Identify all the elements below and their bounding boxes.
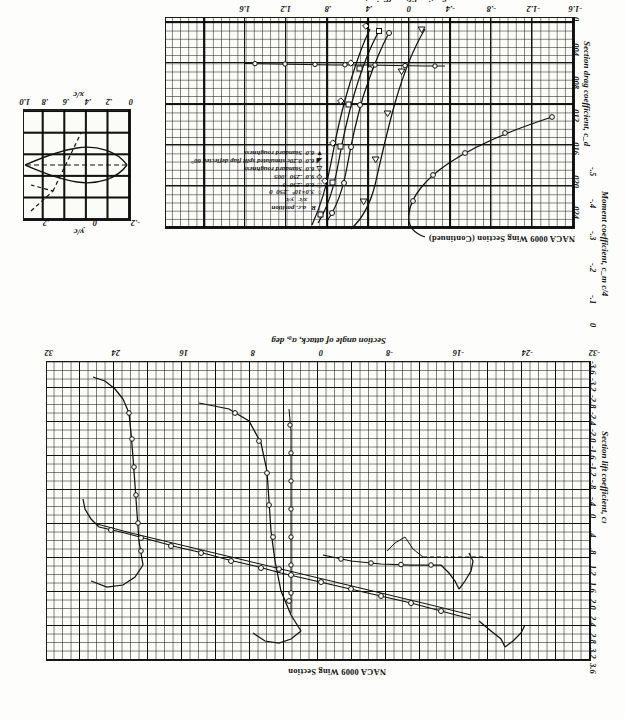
lower-ytick-mom-1: -.4 — [589, 199, 598, 208]
lower-ytick-lift-1: -3.2 — [589, 378, 598, 391]
legend-entry-0: ○ 3.0×10⁶ .250 0 — [191, 188, 323, 196]
lower-ytick-lift-11: .8 — [589, 548, 598, 554]
upper-ytick-drag-024: .024 — [572, 204, 581, 219]
profile-xtick-0: 0 — [129, 98, 133, 107]
lower-ytick-mom-3: -.2 — [589, 263, 598, 272]
lower-ytick-lift-4: -2.0 — [589, 429, 598, 442]
upper-ytick-drag-004: .004 — [572, 41, 581, 56]
airfoil-profile-figure: 0 .2 .4 .6 .8 1.0 x/c -.2 0 .2 y/c — [19, 91, 139, 229]
legend-entry-4: ◢ 6.0 0.20c simulated split flap deflect… — [191, 156, 323, 164]
legend-entry-2: ◇ 9.0 .250 .005 — [191, 172, 323, 180]
profile-xtick-6: .6 — [63, 98, 69, 107]
polar-markers-roughness — [360, 27, 425, 205]
legend-marker-square: □ — [316, 180, 323, 188]
upper-ytick-drag-0: 0 — [572, 17, 581, 21]
drag-polar-figure: R a.c. position x/c y/c ○ 3.0×10⁶ .250 0… — [145, 0, 575, 229]
profile-xtick-10: 1.0 — [19, 98, 30, 107]
lower-ytick-lift-13: 1.6 — [589, 582, 598, 593]
legend-subheaders: x/c y/c — [191, 195, 323, 203]
lift-markers-main — [109, 528, 444, 614]
lower-ytick-mom-4: -.1 — [589, 295, 598, 304]
legend-entry-1: □ 6.0 .250 0 — [191, 180, 323, 188]
lower-ytick-lift-12: 1.2 — [589, 565, 598, 576]
lower-ytick-lift-5: -1.6 — [589, 446, 598, 459]
lower-xtick-32: 32 — [45, 349, 54, 358]
lower-xtick--16: -16 — [453, 349, 464, 358]
lower-xtick-24: 24 — [112, 349, 121, 358]
profile-ytick-neg2: -.2 — [131, 219, 140, 228]
upper-xtick-1.6: 1.6 — [239, 5, 250, 14]
upper-xtick-0: 0 — [407, 5, 411, 14]
lower-ytick-lift-18: 3.6 — [589, 663, 598, 674]
lift-moment-figure: -32 -24 -16 -8 0 8 16 24 32 Section angl… — [31, 301, 591, 661]
upper-ytick-drag-020: .020 — [572, 173, 581, 188]
upper-xtick-0.8: .8 — [325, 5, 331, 14]
lower-ytick-mom-0: -.5 — [589, 167, 598, 176]
upper-xtick-0.4: .4 — [366, 5, 372, 14]
legend-marker-circle: ○ — [316, 188, 323, 196]
legend-marker-triangle: △ — [316, 164, 323, 172]
lower-xtick-16: 16 — [180, 349, 189, 358]
upper-xtick--0.4: -.4 — [446, 5, 455, 14]
caption-top: NACA 0009 Wing Section (Continued) — [429, 234, 575, 244]
profile-xtick-2: .2 — [106, 98, 112, 107]
polar-markers-splitflap — [411, 115, 555, 204]
lower-ytick-lift-6: -1.2 — [589, 463, 598, 476]
profile-ytick-0: 0 — [93, 219, 97, 228]
legend-marker-halffilled: ◢ — [316, 156, 323, 164]
upper-ytick-drag-012: .012 — [572, 107, 581, 122]
lift-markers-roughness — [233, 411, 292, 604]
legend-col-headers: R a.c. position — [191, 203, 323, 211]
lower-xtick-8: 8 — [251, 349, 255, 358]
profile-ytick-pos2: .2 — [43, 219, 49, 228]
lower-xtick--8: -8 — [386, 349, 393, 358]
polar-markers-R6 — [318, 29, 382, 218]
lower-ytick-lift-15: 2.4 — [589, 616, 598, 627]
lower-ytick-lift-2: -2.8 — [589, 395, 598, 408]
legend-entry-5: ▼ 6.0 Standard roughness — [191, 148, 323, 156]
profile-xlabel: x/c — [73, 90, 84, 99]
lower-ytick-lift-8: -.4 — [589, 497, 598, 506]
lower-xlabel: Section angle of attack, α₀, deg — [271, 336, 386, 345]
upper-xtick-1.2: 1.2 — [280, 5, 291, 14]
profile-ylabel: y/c — [74, 227, 85, 236]
moment-ac-markers — [253, 61, 437, 68]
drag-polar-legend: R a.c. position x/c y/c ○ 3.0×10⁶ .250 0… — [191, 148, 323, 211]
upper-ytick-drag-016: .016 — [572, 140, 581, 155]
legend-marker-filled-triangle: ▼ — [316, 148, 323, 156]
lower-ytick-lift-0: -3.6 — [589, 361, 598, 374]
upper-ytick-drag-008: .008 — [572, 74, 581, 89]
splitflap-lift-markers — [339, 557, 434, 568]
legend-entry-3: △ 6.0 Standard roughness — [191, 164, 323, 172]
legend-marker-diamond: ◇ — [316, 172, 323, 180]
lower-ytick-lift-17: 3.2 — [589, 648, 598, 659]
lower-xtick-0: 0 — [319, 349, 323, 358]
upper-ylabel-drag: Section drag coefficient, c_d — [582, 41, 591, 146]
profile-xtick-4: .4 — [85, 98, 91, 107]
lower-ytick-lift-3: -2.4 — [589, 412, 598, 425]
lower-ytick-lift-9: 0 — [589, 514, 598, 518]
airfoil-outline — [19, 91, 139, 229]
page-sheet-rotated-180: 0 .2 .4 .6 .8 1.0 x/c -.2 0 .2 y/c — [0, 0, 625, 719]
lower-ylabel-moment: Moment coefficient, c_m c/4 — [600, 191, 609, 296]
upper-xlabel: Section lift coefficient, cₗ — [356, 0, 447, 3]
lower-ytick-lift-7: -.8 — [589, 480, 598, 489]
lower-ytick-lift-14: 2.0 — [589, 599, 598, 610]
lower-xtick--32: -32 — [589, 349, 600, 358]
upper-xtick--1.6: -1.6 — [569, 5, 582, 14]
profile-xtick-8: .8 — [42, 98, 48, 107]
upper-xtick--1.2: -1.2 — [527, 5, 540, 14]
lower-ylabel-lift: Section lift coefficient, cₗ — [600, 431, 609, 522]
lower-xtick--24: -24 — [522, 349, 533, 358]
lower-ytick-mom-2: -.3 — [589, 231, 598, 240]
lower-ytick-lift-16: 2.8 — [589, 633, 598, 644]
caption-bottom: NACA 0009 Wing Section — [288, 667, 386, 677]
lower-ytick-mom-5: 0 — [589, 323, 598, 327]
scanned-airfoil-data-page: 0 .2 .4 .6 .8 1.0 x/c -.2 0 .2 y/c — [0, 0, 625, 719]
lower-ytick-lift-10: .4 — [589, 531, 598, 537]
upper-xtick--0.8: -.8 — [487, 5, 496, 14]
